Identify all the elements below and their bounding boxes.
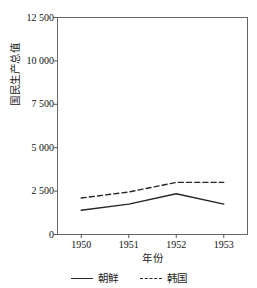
x-axis-ticks xyxy=(81,235,224,239)
x-axis-tick-label: 1953 xyxy=(200,239,248,250)
legend-label-series-0: 朝鲜 xyxy=(98,272,118,284)
x-axis-tick-label: 1950 xyxy=(57,239,105,250)
y-axis-title: 国民生产总值 xyxy=(9,22,21,126)
x-axis-title: 年份 xyxy=(57,252,248,264)
x-axis-tick-label: 1951 xyxy=(105,239,153,250)
chart-figure: 国民生产总值 02 5005 0007 50010 00012 500 1950… xyxy=(0,0,257,288)
legend-item-series-0[interactable]: 朝鲜 xyxy=(71,272,118,284)
y-axis-tick-label: 12 500 xyxy=(10,13,54,23)
legend-item-series-1[interactable]: 韩国 xyxy=(140,272,187,284)
plot-frame xyxy=(58,18,248,235)
y-axis-tick-label: 2 500 xyxy=(10,186,54,196)
data-series-group xyxy=(81,182,224,210)
chart-legend: 朝鲜 韩国 xyxy=(0,269,257,287)
y-axis-tick-label: 5 000 xyxy=(10,143,54,153)
y-axis-tick-label: 10 000 xyxy=(10,56,54,66)
legend-label-series-1: 韩国 xyxy=(167,272,187,284)
x-axis-tick-label: 1952 xyxy=(152,239,200,250)
y-axis-tick-label: 7 500 xyxy=(10,99,54,109)
legend-line-dashed-icon xyxy=(140,278,162,279)
data-series-line-1 xyxy=(81,182,224,198)
y-axis-tick-label: 0 xyxy=(10,230,54,240)
data-series-line-0 xyxy=(81,194,224,211)
y-axis-ticks xyxy=(54,18,58,235)
legend-line-solid-icon xyxy=(71,278,93,279)
